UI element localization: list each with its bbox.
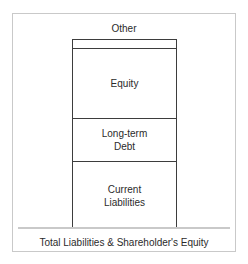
bar-segment-current-liabilities: Current Liabilities [73,162,176,229]
bar-segment-other [73,40,176,49]
bar-segment-current-liabilities-label: Current Liabilities [104,183,145,209]
stacked-bar-plot: Other Equity Long-term Debt Current Liab… [13,14,235,251]
bar-segment-long-term-debt-label: Long-term Debt [102,127,148,153]
figure-caption: Total Liabilities & Shareholder's Equity [13,236,235,249]
balance-sheet-figure: Other Equity Long-term Debt Current Liab… [12,13,236,252]
other-segment-external-label: Other [13,23,235,35]
bar-segment-long-term-debt: Long-term Debt [73,119,176,162]
axis-baseline [18,227,230,229]
stacked-bar: Equity Long-term Debt Current Liabilitie… [72,39,177,228]
bar-segment-equity-label: Equity [111,77,139,90]
bar-segment-equity: Equity [73,49,176,119]
